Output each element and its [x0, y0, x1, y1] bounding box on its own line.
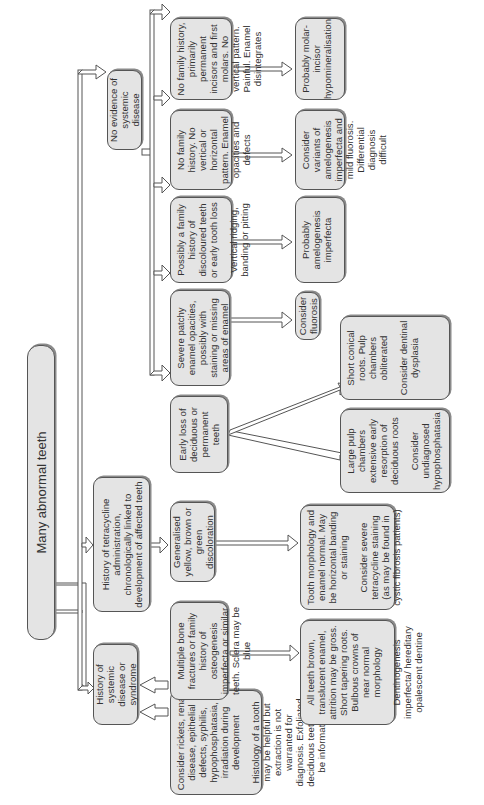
node-tetracycline-history: History of tetracycline administration, …	[93, 477, 150, 612]
node-probably-amelogenesis: Probably amelogenesis imperfecta	[295, 197, 345, 283]
root-node-label: Many abnormal teeth	[36, 431, 47, 553]
node-label: No evidence of systemic disease	[108, 74, 141, 146]
node-label: Possibly a family history of discoloured…	[175, 201, 219, 279]
node-label: Consider fluorosis	[297, 296, 319, 336]
node-label: Consider variants of amelogenesis imperf…	[300, 114, 388, 186]
node-label: Multiple bone fractures or family histor…	[175, 606, 252, 696]
node-label: History of tetracycline administration, …	[100, 481, 144, 608]
node-label: Tooth morphology and enamel normal. May …	[305, 509, 349, 606]
node-label: No family history, primarily permanent i…	[175, 22, 263, 96]
node-label: Probably molar-incisor hypomineralisatio…	[300, 19, 333, 99]
node-consider-fluorosis: Consider fluorosis	[295, 292, 320, 340]
node-label: No family history. No vertical or horizo…	[175, 114, 252, 186]
node-short-conical-roots: Short conical roots. Pulp chambers oblit…	[340, 316, 450, 400]
node-multiple-bone-fractures: Multiple bone fractures or family histor…	[170, 602, 228, 700]
node-no-family-incisors-molars: No family history, primarily permanent i…	[170, 18, 232, 100]
node-note: Consider undiagnosed hypophosphatasia	[409, 412, 442, 490]
node-label: All teeth brown, translucent enamel, att…	[305, 624, 382, 721]
root-node-many-abnormal-teeth: Many abnormal teeth	[27, 345, 55, 640]
node-early-tooth-loss: Early loss of deciduous or permanent tee…	[170, 396, 228, 473]
node-note: Consider severe tetracycline staining (a…	[358, 509, 402, 606]
node-note: Dentinogenesis imperfecta/ hereditary op…	[391, 624, 424, 721]
node-no-systemic-disease: No evidence of systemic disease	[107, 70, 142, 150]
node-note: Vertical ridging, banding or pitting	[228, 201, 250, 279]
node-label: Early loss of deciduous or permanent tee…	[177, 400, 221, 469]
node-systemic-disease: History of systemic disease or syndrome	[93, 644, 138, 725]
node-all-teeth-brown: All teeth brown, translucent enamel, att…	[300, 620, 395, 725]
node-generalised-discoloration: Generalised yellow, brown or green disco…	[170, 502, 215, 582]
node-label: Consider rickets, renal disease, epithel…	[175, 694, 241, 791]
node-tooth-morphology-normal: Tooth morphology and enamel normal. May …	[300, 505, 395, 610]
node-large-pulp-chambers: Large pulp chambers extensive early reso…	[340, 409, 450, 493]
node-label: Large pulp chambers extensive early reso…	[345, 413, 400, 489]
node-note: Consider dentinal dysplasia	[398, 320, 420, 396]
node-severe-patchy-opacities: Severe patchy enamel opacities, possibly…	[170, 290, 230, 386]
node-no-family-no-pattern: No family history. No vertical or horizo…	[170, 110, 232, 190]
node-label: Generalised yellow, brown or green disco…	[171, 506, 215, 578]
flowchart: Many abnormal teeth History of systemic …	[0, 0, 484, 805]
node-label: Short conical roots. Pulp chambers oblit…	[345, 320, 389, 396]
node-label: Severe patchy enamel opacities, possibly…	[175, 294, 230, 382]
node-label: Probably amelogenesis imperfecta	[300, 201, 333, 279]
node-consider-variants: Consider variants of amelogenesis imperf…	[295, 110, 345, 190]
node-molar-incisor-hypomineralisation: Probably molar-incisor hypomineralisatio…	[295, 18, 345, 100]
node-family-history-discoloured: Possibly a family history of discoloured…	[170, 197, 232, 283]
node-consider-rickets: Consider rickets, renal disease, epithel…	[170, 690, 262, 795]
node-label: History of systemic disease or syndrome	[94, 648, 138, 721]
